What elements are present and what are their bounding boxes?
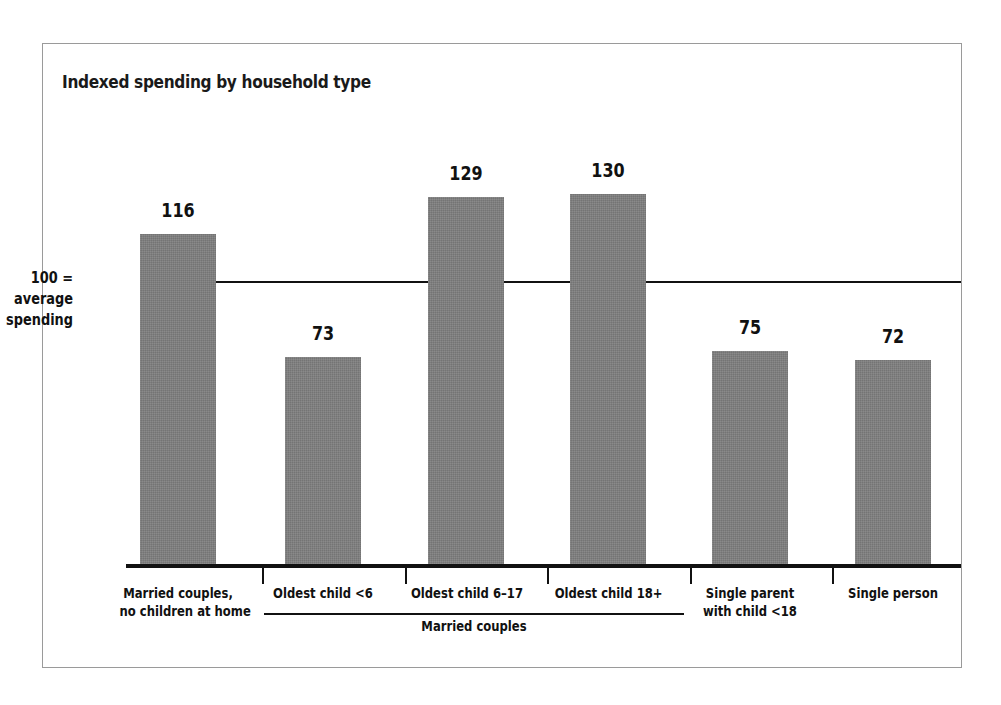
category-label-single-person: Single person (840, 584, 947, 602)
reference-label-line-2: average (0, 289, 73, 310)
category-label-oldest-child-under-6: Oldest child <6 (273, 584, 373, 602)
axis-tick-divider-2 (405, 568, 407, 584)
category-label-line-1: Single person (848, 585, 938, 601)
category-label-oldest-child-18-plus: Oldest child 18+ (555, 584, 662, 602)
reference-label-line-1: 100 = (0, 268, 73, 289)
bar-value-single-person: 72 (861, 325, 925, 347)
category-label-married-no-children: Married couples, no children at home (120, 584, 237, 620)
bar-oldest-child-6-17 (428, 197, 504, 566)
axis-tick-divider-5 (832, 568, 834, 584)
bar-oldest-child-18-plus (570, 194, 646, 566)
group-bracket-rule (264, 613, 684, 615)
category-label-line-2: no children at home (120, 603, 251, 619)
category-label-oldest-child-6-17: Oldest child 6–17 (411, 584, 521, 602)
bar-single-person (855, 360, 931, 566)
bar-value-married-no-children: 116 (146, 199, 210, 221)
chart-figure: Indexed spending by household type 100 =… (0, 0, 1001, 705)
bar-value-single-parent-child-under-18: 75 (718, 316, 782, 338)
category-label-line-1: Married couples, (123, 585, 233, 601)
bar-oldest-child-under-6 (285, 357, 361, 566)
plot-area: 100 = average spending 116 73 129 130 75… (0, 0, 1001, 705)
x-axis-baseline (126, 564, 961, 568)
reference-line-100 (148, 281, 961, 283)
axis-tick-divider-3 (547, 568, 549, 584)
reference-line-label: 100 = average spending (0, 268, 73, 331)
bar-married-no-children (140, 234, 216, 566)
category-label-line-2: with child <18 (703, 603, 797, 619)
bar-single-parent-child-under-18 (712, 351, 788, 566)
bar-value-oldest-child-18-plus: 130 (576, 159, 640, 181)
bar-value-oldest-child-6-17: 129 (434, 162, 498, 184)
category-label-line-1: Single parent (706, 585, 794, 601)
axis-tick-divider-1 (262, 568, 264, 584)
group-bracket-label: Married couples (293, 618, 654, 634)
bar-value-oldest-child-under-6: 73 (291, 322, 355, 344)
category-label-single-parent-child-under-18: Single parent with child <18 (697, 584, 804, 620)
reference-label-line-3: spending (0, 310, 73, 331)
axis-tick-divider-4 (690, 568, 692, 584)
category-label-line-1: Oldest child 18+ (555, 585, 663, 601)
category-label-line-1: Oldest child 6–17 (411, 585, 523, 601)
category-label-line-1: Oldest child <6 (273, 585, 373, 601)
